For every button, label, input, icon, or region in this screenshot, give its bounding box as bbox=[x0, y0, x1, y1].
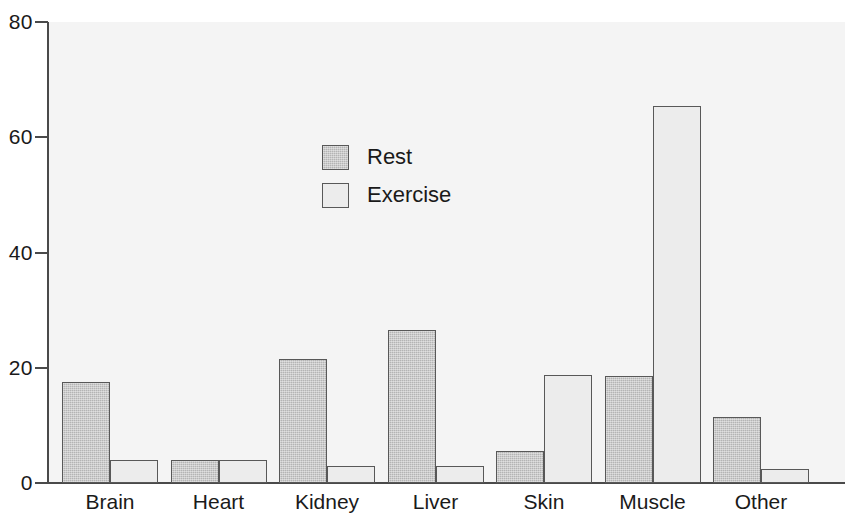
y-axis-tick-label: 20 bbox=[0, 357, 33, 378]
legend-label-rest: Rest bbox=[367, 146, 412, 168]
category-label-kidney: Kidney bbox=[265, 489, 389, 515]
bars-layer bbox=[48, 22, 845, 483]
bar-liver-exercise bbox=[436, 466, 484, 483]
bar-brain-exercise bbox=[110, 460, 158, 483]
bar-heart-exercise bbox=[219, 460, 267, 483]
category-label-other: Other bbox=[699, 489, 823, 515]
y-axis-tick-label: 40 bbox=[0, 242, 33, 263]
bar-muscle-rest bbox=[605, 376, 653, 483]
chart-legend: Rest Exercise bbox=[322, 138, 451, 214]
bar-other-rest bbox=[713, 417, 761, 483]
y-axis-tick-60 bbox=[35, 136, 48, 138]
x-axis-category-labels: BrainHeartKidneyLiverSkinMuscleOther bbox=[48, 489, 845, 522]
y-axis-tick-0 bbox=[35, 482, 48, 484]
y-axis-tick-label: 0 bbox=[0, 472, 33, 493]
legend-item-exercise: Exercise bbox=[322, 176, 451, 214]
bar-kidney-exercise bbox=[327, 466, 375, 483]
legend-label-exercise: Exercise bbox=[367, 184, 451, 206]
bar-other-exercise bbox=[761, 469, 809, 483]
y-axis-tick-label: 60 bbox=[0, 126, 33, 147]
bar-brain-rest bbox=[62, 382, 110, 483]
y-axis-tick-40 bbox=[35, 252, 48, 254]
bar-heart-rest bbox=[171, 460, 219, 483]
bar-chart: 020406080 BrainHeartKidneyLiverSkinMuscl… bbox=[0, 0, 859, 522]
category-label-heart: Heart bbox=[157, 489, 281, 515]
category-label-muscle: Muscle bbox=[591, 489, 715, 515]
y-axis-tick-label: 80 bbox=[0, 11, 33, 32]
bar-skin-exercise bbox=[544, 375, 592, 483]
bar-liver-rest bbox=[388, 330, 436, 483]
legend-item-rest: Rest bbox=[322, 138, 451, 176]
category-label-brain: Brain bbox=[48, 489, 172, 515]
bar-kidney-rest bbox=[279, 359, 327, 483]
category-label-liver: Liver bbox=[374, 489, 498, 515]
y-axis-tick-80 bbox=[35, 21, 48, 23]
legend-swatch-rest-icon bbox=[322, 145, 349, 170]
bar-skin-rest bbox=[496, 451, 544, 483]
category-label-skin: Skin bbox=[482, 489, 606, 515]
bar-muscle-exercise bbox=[653, 106, 701, 483]
y-axis-tick-20 bbox=[35, 367, 48, 369]
y-axis-tick-labels: 020406080 bbox=[0, 0, 33, 522]
legend-swatch-exercise-icon bbox=[322, 183, 349, 208]
